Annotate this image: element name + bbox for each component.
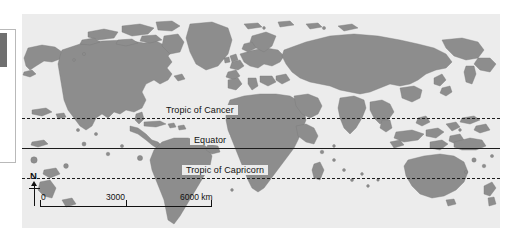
scale-label-6000km: 6000 km bbox=[180, 192, 213, 202]
page-root: Tropic of Cancer Equator Tropic of Capri… bbox=[0, 0, 516, 240]
scale-tick-0 bbox=[40, 200, 41, 207]
world-map[interactable]: Tropic of Cancer Equator Tropic of Capri… bbox=[22, 14, 500, 228]
tropic-of-capricorn-label: Tropic of Capricorn bbox=[182, 165, 268, 175]
scale-tick-3000 bbox=[126, 200, 127, 207]
north-arrow-crossbar bbox=[29, 188, 40, 189]
scale-bar: 0 3000 6000 km bbox=[40, 192, 220, 218]
scale-label-3000: 3000 bbox=[106, 192, 125, 202]
scale-tick-6000 bbox=[211, 200, 212, 207]
document-margin-tab bbox=[0, 33, 7, 67]
tropic-of-cancer-label: Tropic of Cancer bbox=[162, 105, 238, 115]
north-arrow-label: N bbox=[30, 170, 37, 181]
equator-label: Equator bbox=[190, 135, 230, 145]
scale-label-0: 0 bbox=[41, 192, 46, 202]
